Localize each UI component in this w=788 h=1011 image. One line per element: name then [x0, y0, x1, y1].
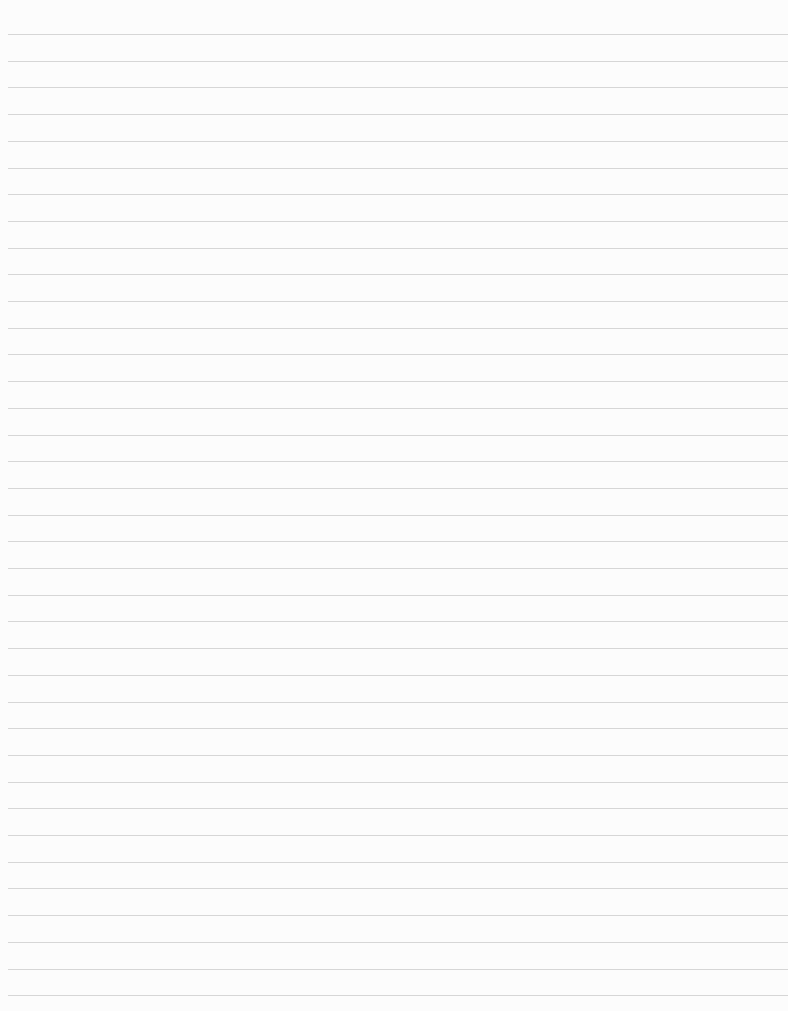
ruled-line [8, 274, 788, 275]
ruled-line [8, 488, 788, 489]
ruled-line [8, 675, 788, 676]
ruled-line [8, 808, 788, 809]
ruled-line [8, 728, 788, 729]
ruled-line [8, 141, 788, 142]
lined-paper-page [0, 0, 788, 1011]
ruled-line [8, 942, 788, 943]
ruled-line [8, 541, 788, 542]
ruled-line [8, 515, 788, 516]
ruled-line [8, 248, 788, 249]
ruled-line [8, 301, 788, 302]
ruled-line [8, 354, 788, 355]
ruled-line [8, 862, 788, 863]
ruled-line [8, 621, 788, 622]
ruled-line [8, 995, 788, 996]
ruled-line [8, 782, 788, 783]
ruled-line [8, 194, 788, 195]
ruled-line [8, 915, 788, 916]
ruled-line [8, 835, 788, 836]
ruled-line [8, 969, 788, 970]
ruled-line [8, 34, 788, 35]
ruled-line [8, 87, 788, 88]
ruled-line [8, 888, 788, 889]
ruled-line [8, 435, 788, 436]
ruled-line [8, 168, 788, 169]
ruled-line [8, 328, 788, 329]
ruled-line [8, 568, 788, 569]
ruled-line [8, 755, 788, 756]
ruled-line [8, 461, 788, 462]
ruled-line [8, 648, 788, 649]
ruled-line [8, 114, 788, 115]
ruled-line [8, 408, 788, 409]
ruled-line [8, 221, 788, 222]
ruled-line [8, 61, 788, 62]
ruled-line [8, 381, 788, 382]
ruled-line [8, 595, 788, 596]
ruled-line [8, 702, 788, 703]
